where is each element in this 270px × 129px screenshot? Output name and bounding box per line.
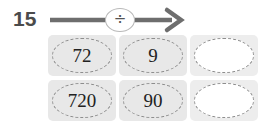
operator-symbol: ÷ bbox=[114, 12, 127, 27]
cell-value: 90 bbox=[144, 91, 163, 110]
operation-arrow: ÷ bbox=[48, 4, 193, 36]
cell-value: 720 bbox=[68, 91, 97, 110]
cell-value: 72 bbox=[73, 46, 92, 65]
divide-icon: ÷ bbox=[105, 8, 135, 32]
oval-outline bbox=[194, 83, 254, 118]
table-row: 720 90 bbox=[48, 80, 260, 121]
cell-r2c1[interactable]: 720 bbox=[48, 80, 116, 121]
cell-r2c3-answer-blank[interactable] bbox=[190, 80, 258, 121]
oval-outline bbox=[194, 38, 254, 73]
operation-header: 15 ÷ bbox=[0, 4, 270, 36]
cell-r1c1[interactable]: 72 bbox=[48, 35, 116, 76]
table-row: 72 9 bbox=[48, 35, 260, 76]
answer-grid: 72 9 720 90 bbox=[48, 35, 260, 125]
cell-value: 9 bbox=[148, 46, 158, 65]
cell-r1c3-answer-blank[interactable] bbox=[190, 35, 258, 76]
cell-r1c2[interactable]: 9 bbox=[119, 35, 187, 76]
problem-number-label: 15 bbox=[13, 7, 36, 31]
worksheet-canvas: 15 ÷ 72 9 bbox=[0, 0, 270, 129]
cell-r2c2[interactable]: 90 bbox=[119, 80, 187, 121]
